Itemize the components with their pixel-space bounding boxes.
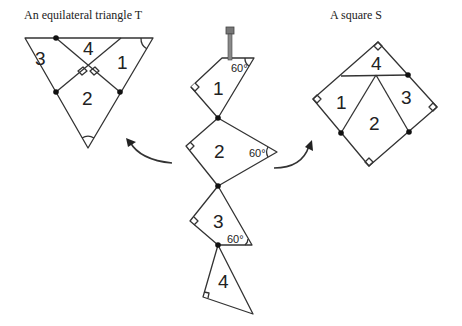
chain-angle-3: 60° — [227, 233, 244, 245]
square-piece-4-label: 4 — [371, 53, 382, 74]
chain-piece-1-label: 1 — [213, 78, 224, 99]
dissection-diagram: 3 4 1 2 1 60° 2 60° 3 60° 4 4 1 2 3 — [0, 0, 462, 326]
square-piece-3-label: 3 — [401, 87, 412, 108]
angle-arc-icon — [141, 38, 147, 49]
curved-arrow-left-icon — [130, 142, 172, 163]
triangle-piece-2-label: 2 — [82, 88, 93, 109]
chain-piece-2-label: 2 — [214, 141, 225, 162]
hinged-chain — [186, 58, 277, 314]
triangle-piece-3-label: 3 — [35, 48, 46, 69]
chain-angle-2: 60° — [249, 147, 266, 159]
square-piece-2-label: 2 — [369, 113, 380, 134]
chain-piece-3-label: 3 — [213, 211, 224, 232]
triangle-piece-4-label: 4 — [83, 38, 94, 59]
triangle-piece-1-label: 1 — [117, 52, 128, 73]
angle-arc-icon — [82, 136, 94, 138]
chain-angle-1: 60° — [231, 62, 248, 74]
pin-icon — [226, 27, 234, 60]
square-piece-1-label: 1 — [336, 92, 347, 113]
curved-arrow-right-icon — [274, 146, 309, 168]
chain-piece-4-label: 4 — [218, 271, 229, 292]
